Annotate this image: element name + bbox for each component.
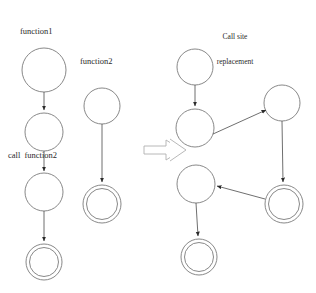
before-function1-graph [22, 48, 66, 280]
call-site-replacement-diagram: function1 function2 call function2 Call … [0, 0, 316, 293]
node-result-accept-inner [185, 243, 214, 272]
node-function2-accept-inner [87, 189, 118, 220]
before-function2-graph [83, 88, 121, 223]
implies-arrow-icon [144, 139, 186, 161]
label-function2: function2 [80, 57, 113, 67]
edge-result-after-call-to-accept [196, 203, 198, 236]
node-result-function2-accept-inner [269, 189, 300, 220]
diagram-title: Call site replacement [192, 16, 278, 83]
diagram-title-line2: replacement [192, 58, 278, 66]
node-function2-entry [84, 88, 120, 124]
node-function1-accept-inner [30, 248, 59, 277]
label-call-function2: call function2 [8, 151, 57, 161]
node-result-function2-entry [264, 85, 300, 121]
edge-result-function2-accept-to-after-call [217, 186, 265, 199]
node-function1-entry [22, 48, 66, 92]
node-function1-after-call [25, 173, 63, 211]
edge-result-callsite-to-function2-entry [213, 110, 266, 134]
edge-result-function2-entry-to-accept [282, 121, 283, 182]
node-result-after-call [177, 165, 215, 203]
label-function1: function1 [20, 27, 53, 37]
node-function1-callsite [25, 113, 63, 151]
node-result-callsite [176, 109, 214, 147]
diagram-title-line1: Call site [192, 33, 278, 41]
